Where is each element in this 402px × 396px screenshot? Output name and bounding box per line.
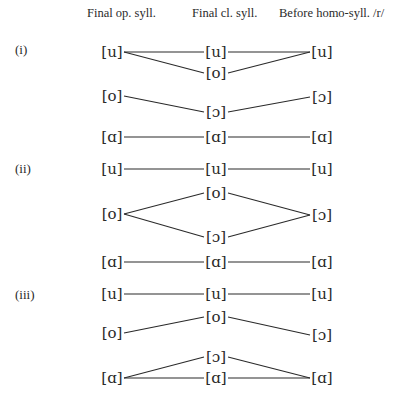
connector-line [124,214,204,237]
vowel-node: [ɑ] [205,129,226,145]
connector-line [124,193,204,214]
vowel-node: [o] [102,206,123,222]
connector-line [228,215,310,237]
connector-line [124,317,204,333]
vowel-node: [ɑ] [101,370,122,386]
vowel-node: [ɔ] [312,327,332,343]
vowel-node: [u] [205,286,226,302]
vowel-node: [ɔ] [312,89,332,105]
vowel-node: [ɔ] [206,349,226,365]
connector-line [228,97,310,112]
vowel-node: [ɑ] [101,254,122,270]
vowel-node: [ɑ] [311,370,332,386]
connector-lines [0,0,402,396]
vowel-node: [u] [205,161,226,177]
vowel-node: [u] [311,161,332,177]
vowel-node: [ɔ] [206,229,226,245]
vowel-node: [u] [311,286,332,302]
vowel-node: [u] [311,44,332,60]
vowel-node: [ɑ] [205,370,226,386]
vowel-node: [u] [101,286,122,302]
vowel-node: [ɔ] [312,207,332,223]
vowel-node: [u] [101,161,122,177]
vowel-node: [ɑ] [205,254,226,270]
connector-line [124,96,204,112]
vowel-node: [o] [102,88,123,104]
vowel-node: [o] [206,185,227,201]
vowel-node: [ɑ] [101,129,122,145]
vowel-node: [u] [205,44,226,60]
connector-line [228,357,310,378]
vowel-node: [u] [101,44,122,60]
vowel-node: [o] [102,325,123,341]
connector-line [124,52,204,73]
connector-line [228,317,310,335]
vowel-node: [o] [206,309,227,325]
connector-line [228,52,310,73]
connector-line [228,193,310,215]
vowel-node: [ɔ] [206,104,226,120]
vowel-node: [ɑ] [311,254,332,270]
vowel-node: [ɑ] [311,129,332,145]
connector-line [124,357,204,378]
vowel-node: [o] [206,65,227,81]
